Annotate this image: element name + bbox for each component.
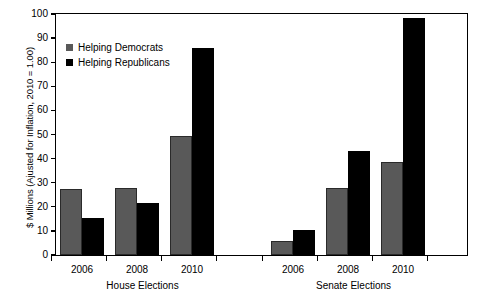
y-axis-title: $ Millions (Ajusted for Inflation, 2010 … (24, 13, 35, 263)
bar-helping-republicans-2006-house (82, 218, 104, 255)
bar-helping-democrats-2006-senate (271, 241, 293, 255)
x-axis-group-label-house-elections: House Elections (106, 280, 178, 291)
y-tick-mark (51, 86, 56, 87)
y-tick-label: 20 (37, 202, 51, 212)
x-tick-line (216, 255, 217, 261)
y-tick-label: 50 (37, 130, 51, 140)
y-tick-label: 10 (37, 226, 51, 236)
y-tick-label: 80 (37, 57, 51, 67)
legend-label-democrats: Helping Democrats (78, 43, 163, 53)
legend-swatch-icon-republicans (66, 59, 73, 66)
y-tick-mark (51, 182, 56, 183)
y-tick-mark (51, 62, 56, 63)
y-tick-label: 90 (37, 33, 51, 43)
y-tick-mark (51, 230, 56, 231)
bar-helping-democrats-2010-senate (381, 162, 403, 255)
y-tick-label: 40 (37, 154, 51, 164)
y-tick-label: 100 (31, 9, 51, 19)
bar-helping-democrats-2008-house (115, 188, 137, 255)
y-tick-mark (51, 13, 56, 14)
x-tick-line (372, 255, 373, 261)
x-tick-line (427, 255, 428, 261)
x-axis-tick-label-house-2010: 2010 (181, 264, 203, 275)
legend-label-republicans: Helping Republicans (78, 58, 170, 68)
x-tick-line (106, 255, 107, 261)
x-tick-line (51, 255, 52, 261)
x-axis-group-label-senate-elections: Senate Elections (316, 280, 391, 291)
x-tick-line (317, 255, 318, 261)
bar-helping-republicans-2006-senate (293, 230, 315, 255)
y-tick-mark (51, 110, 56, 111)
x-axis-tick-label-house-2006: 2006 (71, 264, 93, 275)
bar-helping-democrats-2006-house (60, 189, 82, 255)
bar-helping-republicans-2008-senate (348, 151, 370, 255)
bar-helping-republicans-2010-house (192, 48, 214, 255)
bar-helping-democrats-2008-senate (326, 188, 348, 255)
y-tick-label: 70 (37, 81, 51, 91)
y-tick-mark (51, 206, 56, 207)
y-tick-label: 60 (37, 105, 51, 115)
x-tick-line (262, 255, 263, 261)
bar-helping-republicans-2010-senate (403, 18, 425, 255)
y-tick-label: 30 (37, 178, 51, 188)
legend-item-helping-democrats: Helping Democrats (66, 40, 170, 55)
legend-item-helping-republicans: Helping Republicans (66, 55, 170, 70)
y-tick-mark (51, 134, 56, 135)
x-axis-tick-label-senate-2006: 2006 (282, 264, 304, 275)
y-tick-label: 0 (42, 250, 51, 260)
y-tick-mark (51, 158, 56, 159)
x-axis-tick-label-senate-2010: 2010 (392, 264, 414, 275)
y-tick-mark (51, 37, 56, 38)
x-axis-tick-label-house-2008: 2008 (126, 264, 148, 275)
x-tick-line (161, 255, 162, 261)
legend-swatch-icon-democrats (66, 44, 73, 51)
bar-helping-republicans-2008-house (137, 203, 159, 255)
chart-legend: Helping Democrats Helping Republicans (66, 40, 170, 70)
bar-chart: $ Millions (Ajusted for Inflation, 2010 … (0, 0, 479, 301)
x-axis-tick-label-senate-2008: 2008 (337, 264, 359, 275)
bar-helping-democrats-2010-house (170, 136, 192, 255)
